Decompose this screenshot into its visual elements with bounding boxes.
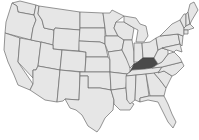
us-map: United States Kentucky xyxy=(0,0,199,140)
state-connecticut xyxy=(184,30,188,34)
state-arkansas xyxy=(110,72,127,90)
state-new-york xyxy=(160,20,184,36)
state-kansas xyxy=(85,57,110,72)
state-new-mexico xyxy=(57,70,80,102)
state-mississippi xyxy=(126,75,136,104)
state-montana xyxy=(38,6,80,30)
state-florida xyxy=(140,96,176,128)
state-north-dakota xyxy=(80,12,105,28)
state-colorado xyxy=(60,50,86,72)
state-arizona xyxy=(30,66,60,102)
state-wyoming xyxy=(53,28,80,51)
us-map-svg xyxy=(0,0,199,140)
state-maine xyxy=(188,2,198,24)
